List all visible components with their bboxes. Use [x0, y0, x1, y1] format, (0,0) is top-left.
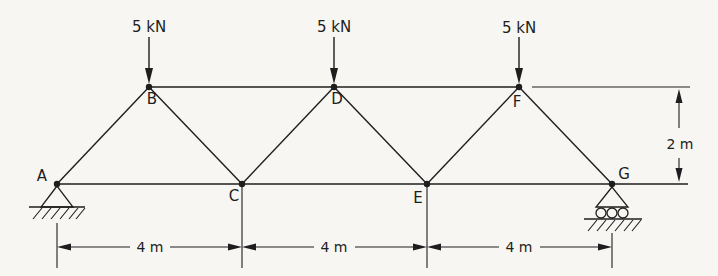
load-label-F: 5 kN	[502, 19, 536, 37]
joint-label-E: E	[413, 189, 422, 207]
dim-arrow-up-icon	[676, 89, 683, 103]
joint-label-G: G	[618, 165, 630, 183]
joint-dot-C	[239, 181, 245, 187]
member-BC	[149, 87, 242, 184]
dimension-label-span-2: 4 m	[321, 239, 348, 255]
load-label-D: 5 kN	[317, 18, 351, 36]
load-arrow-B-icon	[145, 37, 153, 84]
joint-label-A: A	[37, 167, 48, 185]
joint-label-F: F	[513, 93, 522, 111]
member-FG	[519, 87, 612, 184]
load-arrow-F-icon	[515, 37, 523, 84]
joint-dot-F	[516, 84, 522, 90]
member-AB	[57, 87, 149, 184]
load-arrow-D-icon	[330, 37, 338, 84]
member-EF	[427, 87, 519, 184]
dim-arrow-icon	[228, 244, 242, 251]
dimension-label-span-1: 4 m	[137, 239, 164, 255]
ground-hatching-left	[33, 208, 85, 219]
pin-support-icon	[29, 186, 85, 219]
dim-arrow-icon	[242, 244, 256, 251]
joint-label-C: C	[229, 187, 239, 205]
load-arrows	[145, 37, 523, 84]
truss-diagram-canvas: 5 kN 5 kN 5 kN A B C D E F G	[0, 0, 718, 276]
dimension-label-span-3: 4 m	[506, 239, 533, 255]
dim-arrow-icon	[427, 244, 441, 251]
roller-support-icon	[584, 187, 642, 231]
joint-label-B: B	[147, 90, 157, 108]
dim-arrow-icon	[57, 244, 71, 251]
joint-dot-E	[424, 181, 430, 187]
joint-label-D: D	[331, 90, 343, 108]
member-DE	[334, 87, 427, 184]
load-label-B: 5 kN	[132, 18, 166, 36]
truss-figure: 5 kN 5 kN 5 kN A B C D E F G	[0, 0, 718, 276]
dim-arrow-icon	[413, 244, 427, 251]
bottom-dimension-lines	[57, 187, 612, 268]
dimension-label-height: 2 m	[667, 136, 694, 152]
ground-hatching-right	[588, 220, 641, 231]
member-CD	[242, 87, 334, 184]
dim-arrow-down-icon	[676, 168, 683, 182]
dim-arrow-icon	[598, 244, 612, 251]
